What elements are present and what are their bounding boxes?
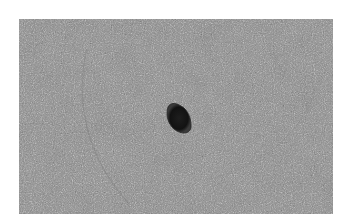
micrograph-image xyxy=(19,19,333,214)
micrograph-field xyxy=(19,19,333,214)
